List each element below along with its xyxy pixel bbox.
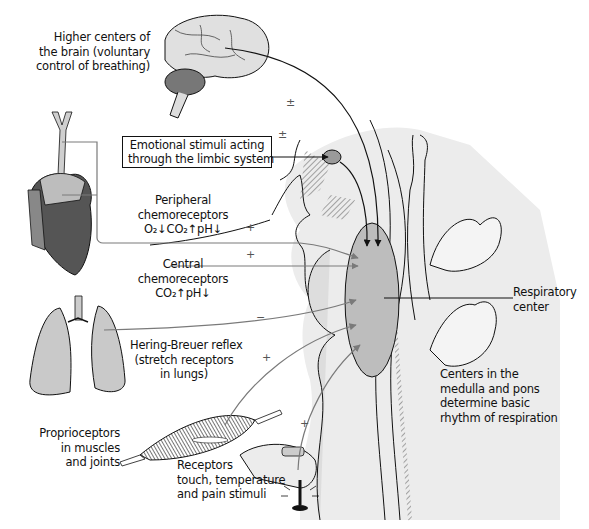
label-medulla-pons: Centers in the medulla and pons determin… [440, 367, 589, 425]
label-receptors: Receptors touch, temperature and pain st… [177, 458, 287, 502]
brain-illustration [165, 15, 269, 118]
label-higher-centers: Higher centers of the brain (voluntary c… [20, 30, 150, 74]
label-proprioceptors: Proprioceptors in muscles and joints [20, 426, 120, 470]
sign-higher-centers: ± [286, 97, 295, 108]
sign-central: + [246, 249, 255, 260]
label-central-chemoreceptors: Central chemoreceptors CO₂↑pH↓ [130, 257, 236, 301]
label-emotional-stimuli: Emotional stimuli acting through the lim… [122, 136, 272, 168]
label-hering-breuer: Hering-Breuer reflex (stretch receptors … [130, 338, 238, 382]
sign-emotional: ± [278, 129, 287, 140]
respiratory-center-shape [345, 223, 399, 377]
sign-peripheral: + [246, 222, 255, 233]
sign-receptors: + [300, 418, 309, 429]
sign-proprioceptors: + [262, 352, 271, 363]
lungs-illustration [30, 296, 125, 395]
label-respiratory-center: Respiratory center [513, 285, 589, 314]
sign-hering-breuer: − [256, 312, 265, 323]
label-peripheral-chemoreceptors: Peripheral chemoreceptors O₂↓CO₂↑pH↓ [130, 193, 236, 237]
heart-illustration [28, 112, 91, 275]
